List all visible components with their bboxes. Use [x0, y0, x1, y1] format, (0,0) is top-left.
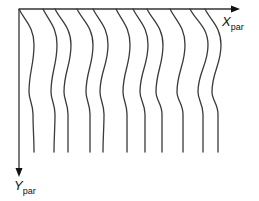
wavy-curve: [55, 9, 71, 152]
wavy-curve: [147, 9, 163, 152]
wavy-curve: [133, 9, 148, 152]
wavy-curve: [205, 9, 221, 152]
x-axis-label: Xpar: [221, 14, 244, 32]
y-axis-arrow-icon: [16, 168, 23, 177]
y-axis-label: Ypar: [14, 178, 36, 196]
wavy-curve: [43, 9, 57, 152]
wavy-curve: [19, 9, 34, 152]
curve-group: [19, 9, 221, 152]
wavy-curve: [93, 9, 108, 152]
y-axis: Ypar: [14, 9, 36, 196]
wavy-curves-diagram: Xpar Ypar: [0, 0, 259, 201]
x-axis-label-sub: par: [231, 22, 244, 32]
wavy-curve: [170, 9, 185, 152]
wavy-curve: [77, 9, 93, 152]
wavy-curve: [116, 9, 130, 152]
x-axis: Xpar: [19, 6, 244, 33]
wavy-curve: [190, 9, 208, 152]
x-axis-arrow-icon: [231, 6, 240, 13]
y-axis-label-sub: par: [23, 186, 36, 196]
